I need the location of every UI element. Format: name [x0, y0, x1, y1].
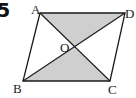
label-b: B: [13, 81, 22, 96]
label-a: A: [31, 2, 41, 17]
parallelogram-diagram: 5 A D O B C: [0, 0, 136, 98]
label-c: C: [108, 82, 117, 97]
label-o: O: [60, 40, 69, 55]
label-d: D: [125, 6, 134, 21]
problem-number: 5: [0, 0, 10, 21]
